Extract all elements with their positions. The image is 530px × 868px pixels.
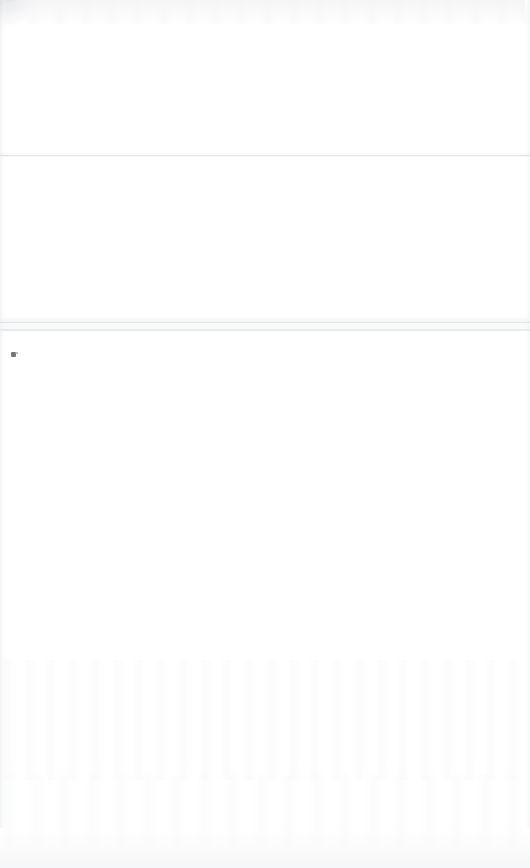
ink-speck-mark [11, 352, 16, 357]
middle-region [0, 156, 530, 322]
header-region [0, 0, 530, 155]
screen-root [0, 0, 530, 868]
body-region [0, 332, 530, 868]
